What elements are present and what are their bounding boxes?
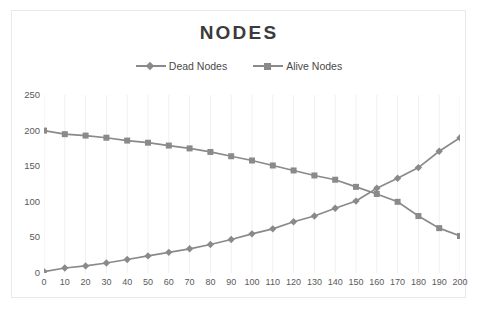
data-point-square [270, 162, 276, 168]
legend-marker-diamond-icon [136, 61, 166, 71]
legend-marker-square-icon [253, 61, 283, 71]
data-point-square [291, 167, 297, 173]
data-point-square [83, 133, 89, 139]
data-point-square [332, 177, 338, 183]
data-point-square [436, 225, 442, 231]
y-axis-tick-label: 200 [12, 126, 40, 136]
x-axis-tick-label: 140 [328, 277, 343, 288]
y-axis-tick-labels: 050100150200250 [10, 95, 40, 273]
x-axis-tick-label: 90 [226, 277, 236, 288]
data-point-square [249, 158, 255, 164]
x-axis-tick-label: 150 [348, 277, 363, 288]
x-axis-tick-labels: 0102030405060708090100110120130140150160… [44, 277, 460, 293]
data-point-square [353, 184, 359, 190]
data-point-square [62, 131, 68, 137]
x-axis-tick-label: 60 [164, 277, 174, 288]
data-point-square [374, 191, 380, 197]
x-axis-tick-label: 70 [185, 277, 195, 288]
x-axis-tick-label: 100 [244, 277, 259, 288]
chart-legend: Dead Nodes Alive Nodes [0, 60, 478, 72]
plot-area [44, 95, 460, 273]
x-axis-tick-label: 130 [307, 277, 322, 288]
x-axis-tick-label: 120 [286, 277, 301, 288]
y-axis-tick-label: 250 [12, 90, 40, 100]
x-axis-tick-label: 170 [390, 277, 405, 288]
x-axis-tick-label: 20 [81, 277, 91, 288]
data-point-diamond [248, 230, 255, 237]
x-axis-tick-label: 50 [143, 277, 153, 288]
y-axis-tick-label: 50 [12, 232, 40, 242]
data-point-diamond [82, 262, 89, 269]
data-point-diamond [103, 259, 110, 266]
x-axis-tick-label: 110 [266, 277, 280, 288]
chart-screenshot: NODES Dead Nodes Alive Nodes 05010015020… [0, 0, 478, 309]
x-axis-tick-label: 10 [60, 277, 70, 288]
y-axis-tick-label: 0 [12, 268, 40, 278]
x-axis-tick-label: 30 [101, 277, 111, 288]
data-point-square [395, 199, 401, 205]
data-point-square [187, 145, 193, 151]
data-point-square [311, 172, 317, 178]
legend-label-dead-nodes: Dead Nodes [169, 60, 227, 72]
legend-item-dead-nodes: Dead Nodes [136, 60, 227, 72]
data-point-square [166, 143, 172, 149]
data-point-square [103, 135, 109, 141]
y-axis-tick-label: 100 [12, 197, 40, 207]
x-axis-tick-label: 160 [369, 277, 384, 288]
data-point-diamond [186, 245, 193, 252]
data-point-diamond [124, 256, 131, 263]
data-point-square [124, 138, 130, 144]
data-point-square [415, 213, 421, 219]
data-point-square [145, 140, 151, 146]
legend-label-alive-nodes: Alive Nodes [286, 60, 342, 72]
data-point-square [457, 233, 460, 239]
data-point-diamond [228, 236, 235, 243]
data-point-diamond [269, 225, 276, 232]
data-point-square [228, 153, 234, 159]
data-point-diamond [165, 249, 172, 256]
x-axis-tick-label: 200 [452, 277, 467, 288]
chart-title: NODES [0, 22, 478, 44]
data-point-diamond [394, 175, 401, 182]
data-point-diamond [290, 218, 297, 225]
x-axis-tick-label: 180 [411, 277, 426, 288]
x-axis-tick-label: 0 [41, 277, 46, 288]
x-axis-tick-label: 40 [122, 277, 132, 288]
plot-svg [44, 95, 460, 273]
data-point-diamond [311, 212, 318, 219]
data-point-square [44, 128, 47, 134]
data-point-diamond [61, 264, 68, 271]
legend-item-alive-nodes: Alive Nodes [253, 60, 342, 72]
x-axis-tick-label: 190 [432, 277, 447, 288]
data-point-diamond [207, 241, 214, 248]
data-point-square [207, 149, 213, 155]
data-point-diamond [144, 252, 151, 259]
data-point-diamond [332, 205, 339, 212]
y-axis-tick-label: 150 [12, 161, 40, 171]
x-axis-tick-label: 80 [205, 277, 215, 288]
